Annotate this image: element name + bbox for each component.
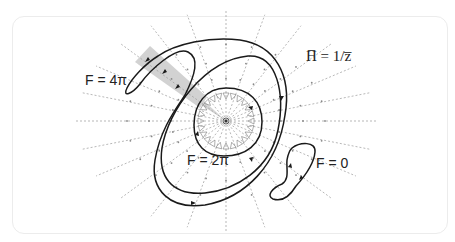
loop-4pi-label: F = 4π	[85, 72, 127, 88]
field-label: H̅ = 1/z̅	[306, 48, 351, 65]
vector-field-diagram	[0, 0, 455, 242]
loop-2pi-label: F = 2π	[187, 152, 229, 168]
loop-0-curve	[270, 144, 315, 200]
loop-0-label: F = 0	[316, 155, 348, 171]
